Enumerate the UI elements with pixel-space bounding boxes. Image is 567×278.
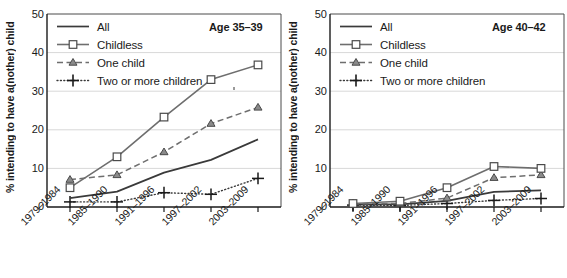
- chart-panel-age-35-39: % intending to have a(nother) child 50 4…: [0, 0, 287, 278]
- legend-swatch-two-or-more-children-right: [340, 75, 372, 87]
- legend-label-childless-left: Childless: [97, 39, 143, 51]
- axis-frame-right: [330, 14, 564, 207]
- legend-label-two-or-more-children-left: Two or more children: [97, 75, 202, 87]
- legend-label-all-left: All: [97, 21, 109, 33]
- legend-swatch-childless-right: [340, 41, 372, 49]
- legend-swatch-one-child-right: [340, 59, 372, 66]
- legend-label-one-child-right: One child: [380, 57, 428, 69]
- gridlines-right: [330, 53, 564, 169]
- legend-right: [340, 27, 372, 87]
- scan-artifact-dot: [233, 87, 235, 90]
- legend-label-two-or-more-children-right: Two or more children: [380, 75, 485, 87]
- plot-area-left: [0, 0, 287, 278]
- figure-two-panel-line-chart: % intending to have a(nother) child 50 4…: [0, 0, 567, 278]
- panel-title-age-35-39: Age 35–39: [209, 21, 263, 33]
- chart-panel-age-40-42: % intending to have a(nother) child 50 4…: [283, 0, 567, 278]
- legend-swatch-two-or-more-children-left: [57, 75, 89, 87]
- legend-label-one-child-left: One child: [97, 57, 145, 69]
- legend-label-childless-right: Childless: [380, 39, 426, 51]
- panel-title-age-40-42: Age 40–42: [492, 21, 546, 33]
- legend-left: [57, 27, 89, 87]
- legend-label-all-right: All: [380, 21, 392, 33]
- legend-swatch-one-child-left: [57, 59, 89, 66]
- legend-swatch-childless-left: [57, 41, 89, 49]
